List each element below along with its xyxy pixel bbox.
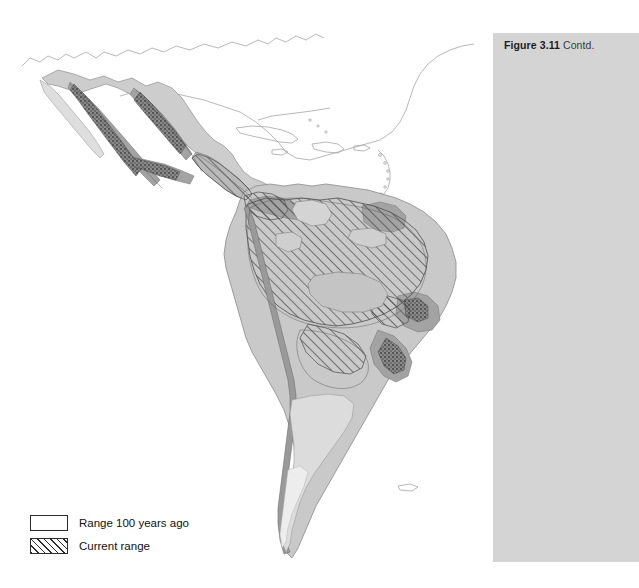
legend-item-current: Current range	[30, 535, 230, 556]
legend-swatch-current	[30, 538, 68, 554]
map-canvas	[0, 0, 493, 588]
figure-number: Figure 3.11	[504, 39, 560, 51]
legend-item-historical: Range 100 years ago	[30, 512, 230, 533]
map-legend: Range 100 years ago Current range	[30, 512, 230, 558]
legend-swatch-historical	[30, 515, 68, 531]
legend-label-current: Current range	[79, 540, 150, 552]
americas-range-map	[0, 0, 493, 588]
figure-caption-panel: Figure 3.11 Contd.	[493, 33, 639, 562]
figure-root: Range 100 years ago Current range Figure…	[0, 0, 639, 588]
legend-label-historical: Range 100 years ago	[79, 517, 189, 529]
figure-caption: Figure 3.11 Contd.	[504, 39, 595, 51]
figure-continuation: Contd.	[563, 39, 595, 51]
